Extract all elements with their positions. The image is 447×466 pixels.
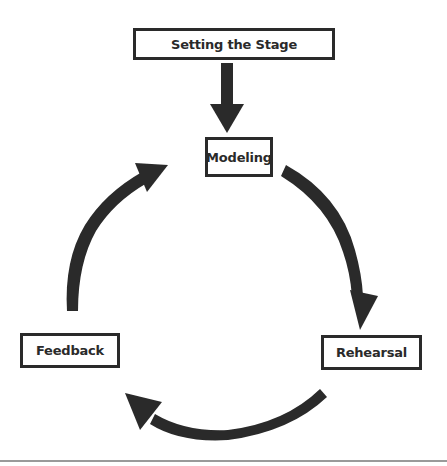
bottom-divider: [0, 460, 447, 462]
down-arrow-icon: [210, 63, 244, 133]
node-modeling: Modeling: [205, 137, 273, 177]
curved-arrow-left-icon: [67, 163, 168, 311]
arrows-layer: [0, 0, 447, 466]
node-setting-the-stage: Setting the Stage: [133, 28, 335, 60]
node-feedback: Feedback: [20, 333, 120, 368]
node-label: Feedback: [36, 343, 104, 358]
node-label: Setting the Stage: [171, 37, 297, 52]
node-label: Modeling: [206, 150, 272, 165]
curved-arrow-bottom-icon: [125, 389, 327, 440]
node-rehearsal: Rehearsal: [321, 335, 422, 370]
curved-arrow-right-icon: [281, 165, 378, 330]
node-label: Rehearsal: [336, 345, 407, 360]
